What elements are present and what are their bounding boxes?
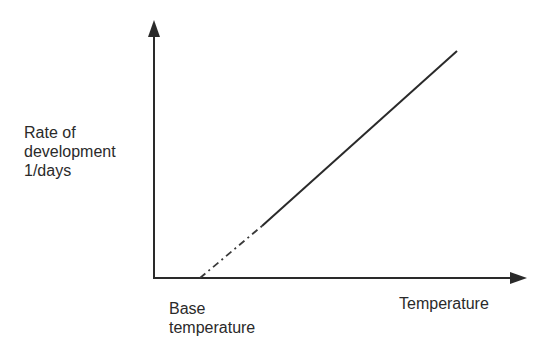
y-axis-label-line-2: development <box>24 142 116 161</box>
y-axis-arrow-icon <box>148 20 160 37</box>
extrapolated-line <box>200 226 262 278</box>
development-rate-line <box>262 51 457 226</box>
base-temperature-line-1: Base <box>169 299 255 318</box>
y-axis-label-line-1: Rate of <box>24 123 116 142</box>
y-axis-label: Rate of development 1/days <box>24 123 116 180</box>
y-axis <box>148 20 160 278</box>
x-axis-arrow-icon <box>510 272 527 284</box>
x-axis-label: Temperature <box>399 294 489 313</box>
y-axis-label-line-3: 1/days <box>24 161 116 180</box>
x-axis <box>153 272 527 284</box>
base-temperature-label: Base temperature <box>169 299 255 337</box>
base-temperature-line-2: temperature <box>169 318 255 337</box>
